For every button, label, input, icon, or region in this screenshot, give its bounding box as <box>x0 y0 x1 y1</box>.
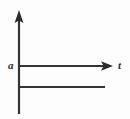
graph-figure: a t <box>0 0 130 119</box>
level-label-a: a <box>8 59 14 71</box>
axis-label-t: t <box>118 59 122 71</box>
figure-container: a t <box>0 0 130 119</box>
